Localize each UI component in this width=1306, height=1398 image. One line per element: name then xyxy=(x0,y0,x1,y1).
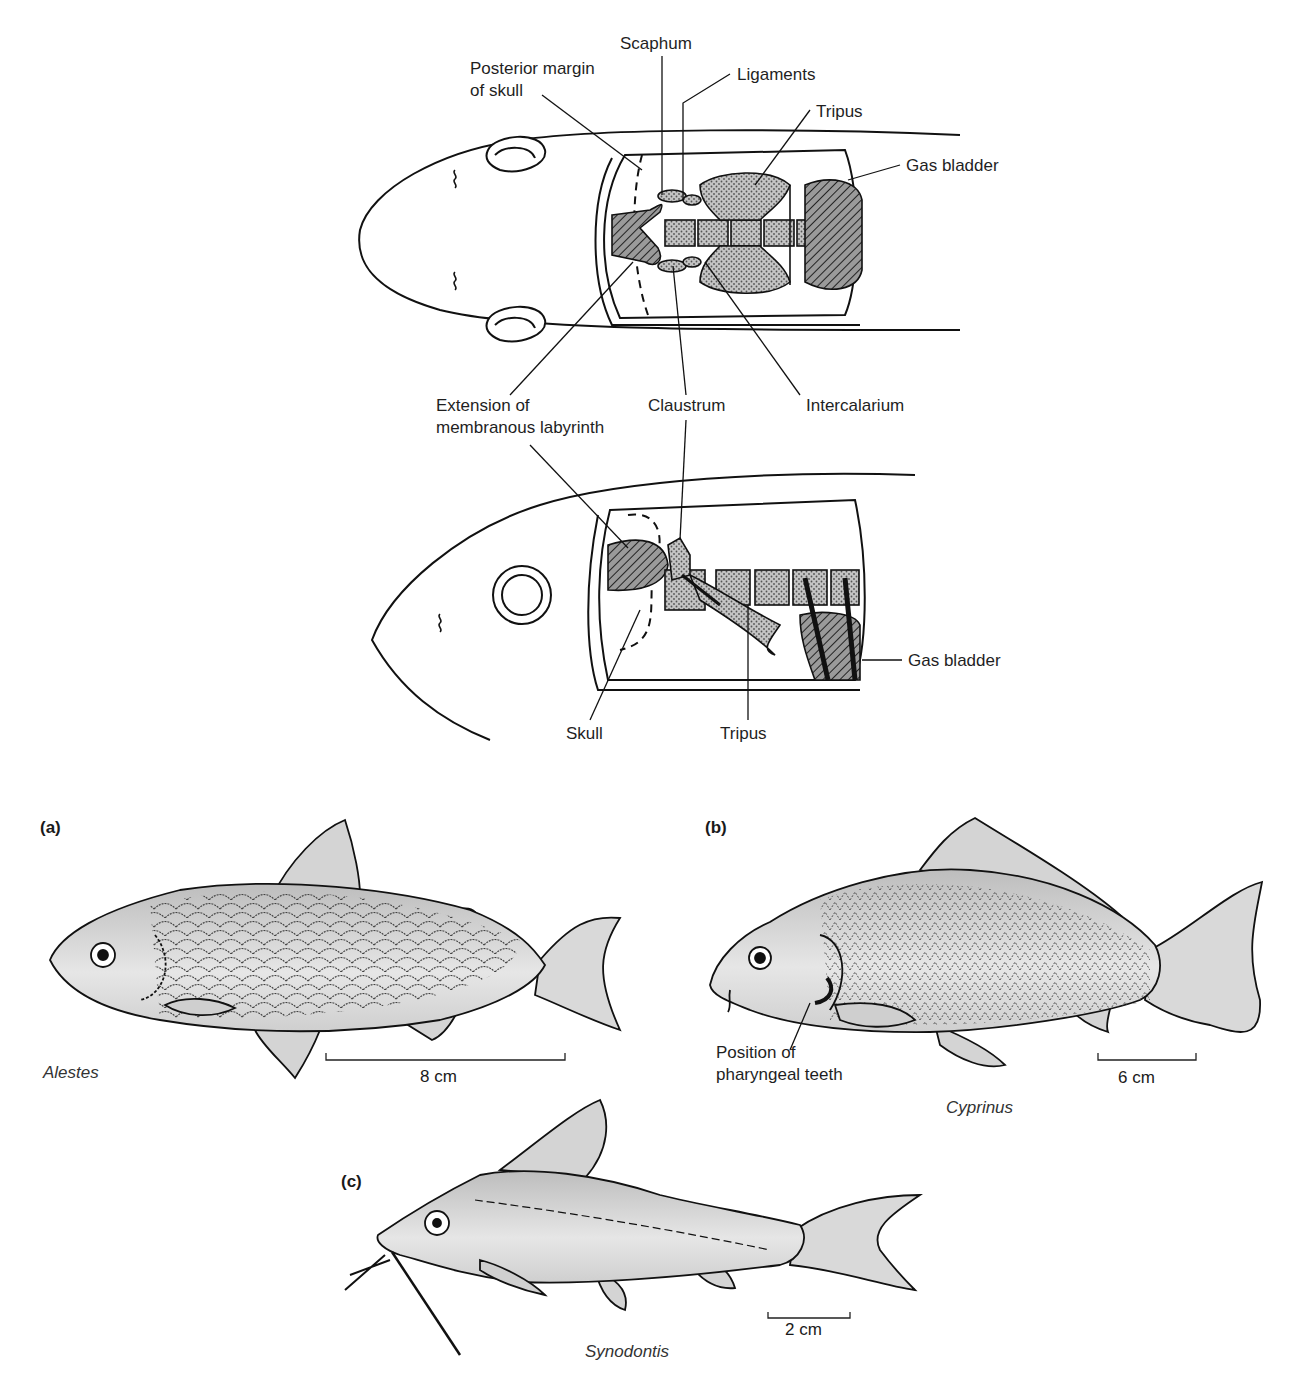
label-extension-line1: Extension of xyxy=(436,395,530,416)
label-scaphum: Scaphum xyxy=(620,33,692,54)
label-claustrum: Claustrum xyxy=(648,395,725,416)
label-intercalarium: Intercalarium xyxy=(806,395,904,416)
label-skull: Skull xyxy=(566,723,603,744)
label-tripus-lateral: Tripus xyxy=(720,723,767,744)
panel-label-c: (c) xyxy=(341,1172,362,1192)
genus-synodontis: Synodontis xyxy=(585,1342,669,1362)
lateral-head-outline xyxy=(372,474,915,740)
scale-label-6cm: 6 cm xyxy=(1118,1068,1155,1088)
label-gas-bladder-dorsal: Gas bladder xyxy=(906,155,999,176)
label-ligaments: Ligaments xyxy=(737,64,815,85)
cyprinus-illustration xyxy=(710,818,1262,1066)
label-posterior-margin-line2: of skull xyxy=(470,80,523,101)
scale-label-2cm: 2 cm xyxy=(785,1320,822,1340)
panel-label-a: (a) xyxy=(40,818,61,838)
panel-label-b: (b) xyxy=(705,818,727,838)
label-position-of: Position of xyxy=(716,1042,795,1063)
scale-label-8cm: 8 cm xyxy=(420,1067,457,1087)
label-extension-line2: membranous labyrinth xyxy=(436,417,604,438)
label-tripus-dorsal: Tripus xyxy=(816,101,863,122)
alestes-illustration xyxy=(50,820,620,1078)
dorsal-head-outline xyxy=(359,130,960,341)
scale-bars xyxy=(326,1053,1196,1318)
label-pharyngeal-teeth: pharyngeal teeth xyxy=(716,1064,843,1085)
synodontis-illustration xyxy=(345,1100,920,1355)
genus-alestes: Alestes xyxy=(43,1063,99,1083)
genus-cyprinus: Cyprinus xyxy=(946,1098,1013,1118)
label-gas-bladder-lateral: Gas bladder xyxy=(908,650,1001,671)
figure-artwork xyxy=(0,0,1306,1398)
label-posterior-margin-line1: Posterior margin xyxy=(470,58,595,79)
